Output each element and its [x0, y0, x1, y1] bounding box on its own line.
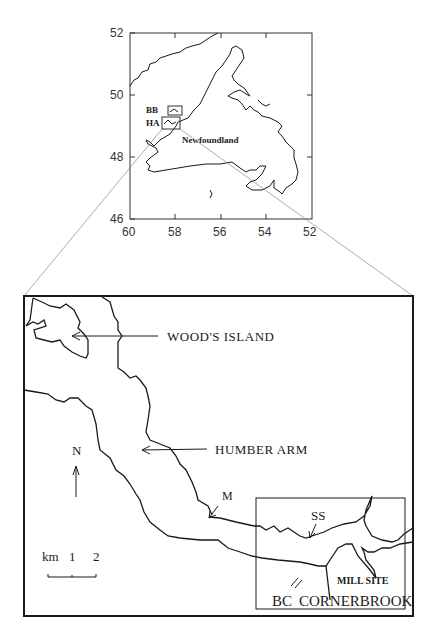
woods-island-coastline	[26, 298, 88, 358]
leader-line-right	[180, 129, 413, 296]
x-tick-56: 56	[213, 225, 227, 239]
scale-unit-label: km	[42, 549, 59, 564]
ha-coast	[164, 120, 176, 124]
cornerbrook-label: CORNERBROOK	[299, 593, 413, 609]
y-tick-46: 46	[110, 212, 124, 226]
y-tick-52: 52	[110, 26, 124, 40]
ha-label: HA	[146, 118, 160, 128]
bb-label: BB	[146, 105, 158, 115]
labrador-coastline	[130, 33, 218, 86]
scale-bar	[48, 574, 96, 577]
y-tick-50: 50	[110, 88, 124, 102]
bc-label: BC	[272, 593, 292, 609]
bb-box	[168, 106, 182, 115]
figure: 52 50 48 46 60 58 56 54 52 BB HA Newfoun…	[0, 0, 433, 639]
x-tick-60: 60	[122, 225, 136, 239]
humber-arm-label: HUMBER ARM	[215, 442, 308, 457]
island-detail	[210, 190, 212, 198]
woods-island-label: WOOD'S ISLAND	[167, 329, 274, 344]
ss-label: SS	[311, 508, 325, 523]
m-label: M	[222, 489, 233, 503]
coastline-detail	[258, 100, 270, 106]
leader-line-left	[24, 129, 162, 296]
scale-tick-1: 1	[69, 549, 76, 564]
x-tick-54: 54	[258, 225, 272, 239]
newfoundland-coastline	[146, 46, 298, 194]
detail-map: WOOD'S ISLAND HUMBER ARM N M SS BC CORNE…	[24, 296, 413, 616]
overview-map: 52 50 48 46 60 58 56 54 52 BB HA Newfoun…	[110, 26, 317, 239]
bb-coast	[170, 109, 178, 112]
bc-arrow-double	[291, 578, 298, 586]
scale-tick-2: 2	[93, 549, 100, 564]
x-tick-58: 58	[168, 225, 182, 239]
x-tick-52: 52	[303, 225, 317, 239]
y-tick-48: 48	[110, 150, 124, 164]
north-label: N	[72, 443, 82, 458]
bc-arrow	[295, 580, 302, 588]
mill-site-label: MILL SITE	[337, 575, 389, 586]
humber-arm-arrow	[142, 449, 207, 450]
south-shore-coastline	[24, 390, 413, 578]
